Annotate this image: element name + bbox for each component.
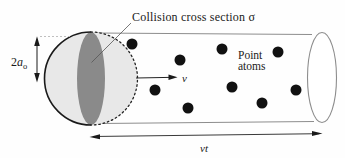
swept-length-arrowhead-left	[90, 134, 101, 139]
point-atom-dot	[273, 47, 284, 58]
swept-length-arrowhead-right	[312, 131, 323, 136]
cylinder-end-ellipse	[308, 33, 337, 123]
velocity-arrow-shaft	[136, 77, 169, 78]
cylinder-bottom-edge	[99, 122, 314, 124]
point-atom-dot	[291, 85, 302, 96]
velocity-arrowhead	[169, 75, 178, 80]
point-atoms-label-line2: atoms	[238, 60, 266, 72]
point-atoms-group	[127, 39, 302, 114]
swept-length-label: vt	[200, 142, 209, 154]
point-atom-dot	[257, 98, 268, 109]
velocity-arrow	[136, 75, 178, 80]
point-atom-dot	[150, 85, 161, 96]
point-atom-dot	[227, 82, 238, 93]
dimension-arrowhead-down	[34, 73, 40, 83]
collision-cross-section-diagram: Collision cross section σ 2ao v Point at…	[0, 0, 345, 158]
velocity-label: v	[182, 72, 187, 84]
physics-figure-collision-cross-section: Collision cross section σ 2ao v Point at…	[0, 0, 345, 158]
moving-atom-sphere	[45, 32, 138, 125]
cross-section-disk	[77, 32, 105, 125]
caption-label: Collision cross section σ	[132, 10, 255, 24]
point-atoms-label-line1: Point	[238, 49, 263, 61]
diameter-label: 2ao	[11, 55, 27, 71]
cylinder-top-edge	[96, 33, 312, 35]
point-atom-dot	[183, 103, 194, 114]
swept-length-arrow	[90, 131, 323, 139]
point-atom-dot	[127, 39, 138, 50]
swept-length-shaft	[93, 134, 319, 137]
dimension-arrowhead-up	[34, 36, 40, 46]
diameter-label-subscript: o	[23, 61, 27, 71]
point-atom-dot	[175, 55, 186, 66]
point-atom-dot	[217, 44, 228, 55]
